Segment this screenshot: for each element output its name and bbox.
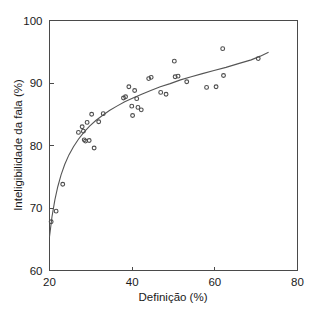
y-tick-label-90: 90 <box>30 77 43 89</box>
x-tick-label-60: 60 <box>208 276 221 288</box>
scatter-plot: 20406080 60708090100 Definição (%) Intel… <box>0 0 320 322</box>
y-tick-label-100: 100 <box>23 15 42 27</box>
y-tick-label-60: 60 <box>30 265 43 277</box>
y-axis-title: Inteligibilidade da fala (%) <box>12 79 24 211</box>
y-tick-label-70: 70 <box>30 202 43 214</box>
x-axis-title: Definição (%) <box>138 291 207 303</box>
x-tick-label-20: 20 <box>43 276 56 288</box>
chart-background <box>0 0 320 322</box>
y-tick-label-80: 80 <box>30 140 43 152</box>
x-tick-label-40: 40 <box>126 276 139 288</box>
x-tick-label-80: 80 <box>291 276 304 288</box>
chart-figure: 20406080 60708090100 Definição (%) Intel… <box>0 0 320 322</box>
